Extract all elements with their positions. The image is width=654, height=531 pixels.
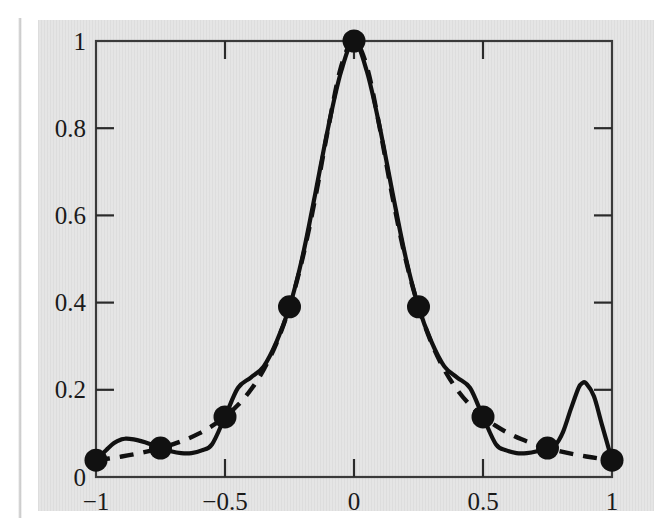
figure-page: 1 0.8 0.6 0.4 0.2 0 −1 −0.5 0 0.5 1 <box>0 0 654 531</box>
interpolation-node-marker <box>472 405 495 428</box>
interpolation-node-marker <box>536 437 559 460</box>
series-runge-function <box>96 41 612 460</box>
runge-phenomenon-chart: 1 0.8 0.6 0.4 0.2 0 −1 −0.5 0 0.5 1 <box>0 0 654 531</box>
series-polynomial-interpolant <box>96 41 612 460</box>
data-layer <box>96 41 612 460</box>
interpolation-node-markers <box>85 30 624 472</box>
interpolation-node-marker <box>149 437 172 460</box>
interpolation-node-marker <box>601 449 624 472</box>
x-tick-labels: −1 −0.5 0 0.5 1 <box>83 488 619 515</box>
interpolation-node-marker <box>343 30 366 53</box>
interpolation-node-marker <box>407 295 430 318</box>
y-tick-label-0_2: 0.2 <box>55 376 86 403</box>
x-tick-label-neg1: −1 <box>83 488 110 515</box>
x-tick-label-0: 0 <box>348 488 361 515</box>
interpolation-node-marker <box>214 405 237 428</box>
y-tick-label-0_4: 0.4 <box>55 289 87 316</box>
chart-svg: 1 0.8 0.6 0.4 0.2 0 −1 −0.5 0 0.5 1 <box>0 0 654 531</box>
y-axis-ticks <box>96 128 612 390</box>
y-tick-label-1: 1 <box>74 28 87 55</box>
x-tick-label-neg0_5: −0.5 <box>202 488 247 515</box>
plot-frame <box>96 41 612 477</box>
y-tick-label-0_8: 0.8 <box>55 115 86 142</box>
x-axis-ticks <box>225 41 483 477</box>
interpolation-node-marker <box>85 449 108 472</box>
y-tick-labels: 1 0.8 0.6 0.4 0.2 0 <box>55 28 87 491</box>
x-tick-label-0_5: 0.5 <box>467 488 498 515</box>
interpolation-node-marker <box>278 295 301 318</box>
y-tick-label-0: 0 <box>74 464 87 491</box>
x-tick-label-1: 1 <box>606 488 619 515</box>
y-tick-label-0_6: 0.6 <box>55 202 86 229</box>
